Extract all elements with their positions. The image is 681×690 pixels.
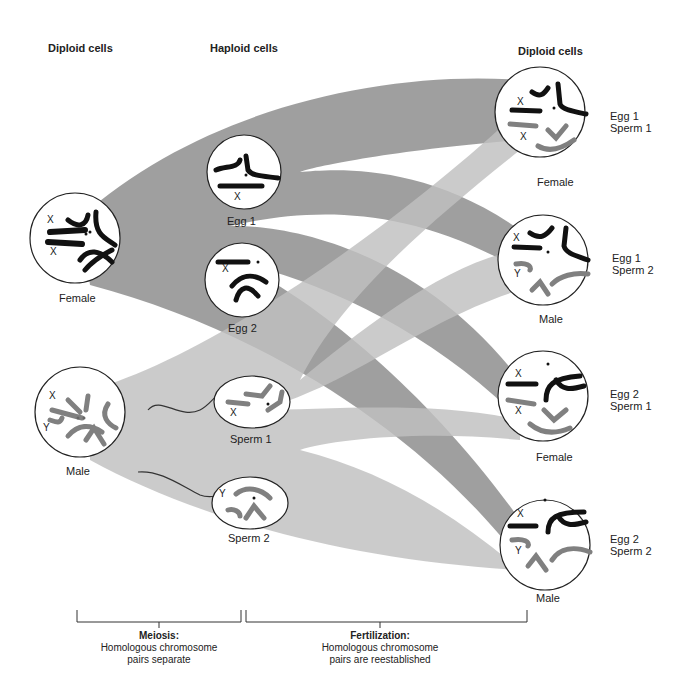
- header-diploid-left: Diploid cells: [48, 42, 113, 54]
- egg2-x-mark: X: [222, 263, 229, 274]
- fertilization-caption: Fertilization: Homologous chromosome pai…: [305, 630, 455, 666]
- offspring-4-mark-1: X: [517, 508, 524, 519]
- female-parent-cell: [30, 193, 120, 283]
- egg1-cell: [207, 135, 281, 209]
- fertilization-title: Fertilization:: [305, 630, 455, 642]
- sperm1-label: Sperm 1: [230, 433, 272, 445]
- offspring-1-mark-2: X: [520, 131, 527, 142]
- female-parent-label: Female: [59, 292, 96, 304]
- sperm2-y-mark: Y: [219, 488, 226, 499]
- offspring-cell-4: [500, 499, 590, 591]
- female-x-mark-2: X: [50, 246, 57, 257]
- offspring-2-sperm: Sperm 2: [612, 264, 654, 276]
- offspring-4-sex: Male: [536, 592, 560, 604]
- egg1-x-mark: X: [234, 191, 241, 202]
- meiosis-title: Meiosis:: [89, 630, 229, 642]
- fertilization-line1: Homologous chromosome: [305, 642, 455, 654]
- offspring-2-mark-2: Y: [514, 268, 521, 279]
- meiosis-caption: Meiosis: Homologous chromosome pairs sep…: [89, 630, 229, 666]
- sperm2-label: Sperm 2: [228, 532, 270, 544]
- offspring-2-mark-1: X: [513, 232, 520, 243]
- offspring-3-sex: Female: [536, 451, 573, 463]
- egg2-cell: [205, 243, 279, 317]
- offspring-1-pair: Egg 1 Sperm 1: [610, 110, 652, 134]
- fertilization-line2: pairs are reestablished: [305, 654, 455, 666]
- offspring-2-egg: Egg 1: [612, 252, 654, 264]
- male-x-mark: X: [49, 390, 56, 401]
- female-x-mark-1: X: [47, 214, 54, 225]
- offspring-1-sex: Female: [537, 176, 574, 188]
- offspring-2-pair: Egg 1 Sperm 2: [612, 252, 654, 276]
- offspring-1-mark-1: X: [517, 96, 524, 107]
- male-y-mark: Y: [43, 422, 50, 433]
- meiosis-line2: pairs separate: [89, 654, 229, 666]
- meiosis-bracket: [77, 610, 241, 628]
- male-parent-label: Male: [66, 465, 90, 477]
- offspring-cell-1: [495, 67, 586, 157]
- offspring-1-sperm: Sperm 1: [610, 122, 652, 134]
- egg2-label: Egg 2: [228, 322, 257, 334]
- sperm1-x-mark: X: [230, 407, 237, 418]
- fertilization-bracket: [246, 610, 527, 628]
- offspring-3-egg: Egg 2: [610, 388, 652, 400]
- inheritance-diagram: [0, 0, 681, 690]
- header-diploid-right: Diploid cells: [518, 45, 583, 57]
- offspring-1-egg: Egg 1: [610, 110, 652, 122]
- offspring-3-sperm: Sperm 1: [610, 400, 652, 412]
- meiosis-line1: Homologous chromosome: [89, 642, 229, 654]
- offspring-3-pair: Egg 2 Sperm 1: [610, 388, 652, 412]
- header-haploid: Haploid cells: [210, 42, 278, 54]
- offspring-3-mark-1: X: [515, 368, 522, 379]
- offspring-4-mark-2: Y: [515, 545, 522, 556]
- offspring-4-pair: Egg 2 Sperm 2: [610, 533, 652, 557]
- offspring-2-sex: Male: [539, 313, 563, 325]
- egg1-label: Egg 1: [227, 215, 256, 227]
- male-parent-cell: [35, 367, 125, 457]
- offspring-3-mark-2: X: [515, 405, 522, 416]
- offspring-cell-2: [498, 215, 588, 305]
- offspring-4-egg: Egg 2: [610, 533, 652, 545]
- offspring-4-sperm: Sperm 2: [610, 545, 652, 557]
- offspring-cell-3: [498, 351, 588, 441]
